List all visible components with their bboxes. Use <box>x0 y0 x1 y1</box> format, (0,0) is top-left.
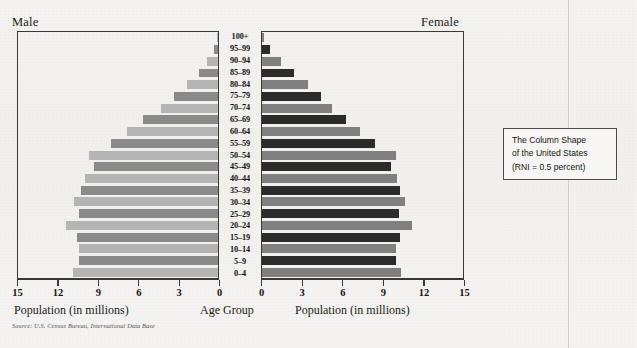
female-bar <box>262 80 308 89</box>
age-group-row: 50–54 <box>222 149 258 161</box>
female-bar <box>262 233 400 242</box>
male-bar <box>81 186 218 195</box>
male-bar <box>214 45 218 54</box>
age-group-label: 15–19 <box>230 233 250 242</box>
female-bar <box>262 33 264 42</box>
female-axis-tick <box>383 280 384 286</box>
male-axis-tick <box>57 280 58 286</box>
age-group-label: 5–9 <box>234 257 246 266</box>
bar-row <box>262 67 463 79</box>
age-group-row: 35–39 <box>222 185 258 197</box>
male-bar <box>73 268 218 277</box>
female-bar <box>262 45 270 54</box>
bar-row <box>18 161 218 173</box>
callout-line-3: (RNI = 0.5 percent) <box>512 162 608 173</box>
female-bar <box>262 162 391 171</box>
age-group-label: 30–34 <box>230 198 250 207</box>
female-bar <box>262 139 375 148</box>
bar-row <box>262 44 463 56</box>
age-group-row: 85–89 <box>222 66 258 78</box>
age-group-label: 10–14 <box>230 245 250 254</box>
age-group-row: 40–44 <box>222 173 258 185</box>
age-group-label: 55–59 <box>230 139 250 148</box>
female-axis-tick <box>423 280 424 286</box>
male-bar <box>74 197 218 206</box>
male-bar <box>77 233 218 242</box>
female-bar <box>262 186 400 195</box>
age-group-row: 70–74 <box>222 102 258 114</box>
age-group-label: 70–74 <box>230 103 250 112</box>
female-bar <box>262 151 396 160</box>
male-bar <box>94 162 218 171</box>
age-group-label: 100+ <box>232 32 249 41</box>
age-group-label: 95–99 <box>230 44 250 53</box>
age-group-row: 90–94 <box>222 55 258 67</box>
female-axis-tick-label: 3 <box>300 287 305 298</box>
female-bar <box>262 268 401 277</box>
male-axis-tick-label: 0 <box>217 287 222 298</box>
male-axis-tick-label: 15 <box>12 287 23 298</box>
age-group-label: 90–94 <box>230 56 250 65</box>
age-group-row: 20–24 <box>222 220 258 232</box>
female-bar <box>262 69 294 78</box>
female-x-axis <box>261 279 464 280</box>
female-bar <box>262 104 332 113</box>
age-group-row: 80–84 <box>222 78 258 90</box>
female-bar <box>262 174 397 183</box>
female-axis-tick <box>261 280 262 286</box>
female-axis-title: Population (in millions) <box>295 303 410 318</box>
bar-row <box>18 208 218 220</box>
bar-row <box>262 243 463 255</box>
age-group-label: 45–49 <box>230 162 250 171</box>
age-group-label: 40–44 <box>230 174 250 183</box>
bar-row <box>262 208 463 220</box>
female-axis-tick <box>342 280 343 286</box>
age-group-row: 30–34 <box>222 196 258 208</box>
male-bar <box>89 151 218 160</box>
age-group-label-column: 100+95–9990–9485–8980–8475–7970–7465–696… <box>222 31 258 279</box>
male-axis-tick-label: 3 <box>177 287 182 298</box>
male-bar <box>127 127 218 136</box>
female-bar <box>262 221 412 230</box>
bar-row <box>18 102 218 114</box>
bar-row <box>262 137 463 149</box>
callout-line-2: of the United States <box>512 148 608 159</box>
male-axis-tick-label: 12 <box>53 287 64 298</box>
bar-row <box>262 55 463 67</box>
female-axis-tick-label: 15 <box>459 287 470 298</box>
female-bar <box>262 115 346 124</box>
age-group-row: 0–4 <box>222 267 258 279</box>
bar-row <box>262 161 463 173</box>
male-axis-tick <box>179 280 180 286</box>
source-note: Source: U.S. Census Bureau, Internationa… <box>12 322 155 329</box>
female-bar <box>262 256 396 265</box>
age-group-label: 75–79 <box>230 91 250 100</box>
bar-row <box>262 32 463 44</box>
bar-row <box>18 196 218 208</box>
female-plot-area <box>261 31 464 279</box>
male-bar-rows <box>18 32 218 278</box>
bar-row <box>18 137 218 149</box>
bar-row <box>18 114 218 126</box>
male-bar <box>161 104 218 113</box>
female-bar <box>262 127 360 136</box>
age-group-label: 0–4 <box>234 269 246 278</box>
female-bar <box>262 57 281 66</box>
age-group-label: 20–24 <box>230 221 250 230</box>
male-bar <box>79 209 218 218</box>
female-bar <box>262 197 405 206</box>
female-axis-tick-label: 0 <box>259 287 264 298</box>
bar-row <box>18 220 218 232</box>
bar-row <box>262 255 463 267</box>
male-axis-tick-label: 6 <box>136 287 141 298</box>
male-axis-tick <box>219 280 220 286</box>
male-plot-area <box>17 31 219 279</box>
age-group-row: 100+ <box>222 31 258 43</box>
male-axis-tick <box>98 280 99 286</box>
male-axis-tick <box>17 280 18 286</box>
callout-line-1: The Column Shape <box>512 135 608 146</box>
callout-box: The Column Shape of the United States (R… <box>503 128 617 180</box>
bar-row <box>262 184 463 196</box>
male-axis-tick-label: 9 <box>96 287 101 298</box>
female-heading: Female <box>421 15 459 30</box>
